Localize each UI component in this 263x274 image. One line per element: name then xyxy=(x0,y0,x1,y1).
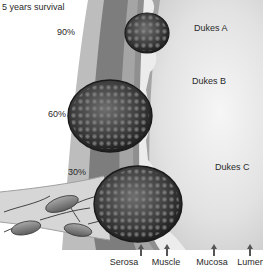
layer-label-mucosa: Mucosa xyxy=(196,258,228,267)
dukes-staging-diagram: 5 years survival 90% 60% 30% Dukes A Duk… xyxy=(0,0,263,274)
survival-percent-c: 30% xyxy=(68,168,86,177)
layer-label-lumen: Lumen xyxy=(237,258,263,267)
tumor-dukes-c xyxy=(94,166,182,242)
tumor-dukes-b xyxy=(68,80,152,152)
survival-percent-b: 60% xyxy=(48,110,66,119)
layer-label-muscle: Muscle xyxy=(152,258,181,267)
survival-percent-a: 90% xyxy=(57,28,75,37)
stage-label-dukes-a: Dukes A xyxy=(194,24,228,33)
survival-title: 5 years survival xyxy=(2,3,65,12)
stage-label-dukes-b: Dukes B xyxy=(192,77,226,86)
bowel-wall-illustration xyxy=(0,0,263,274)
layer-label-serosa: Serosa xyxy=(110,258,139,267)
tumor-dukes-a xyxy=(125,13,169,53)
stage-label-dukes-c: Dukes C xyxy=(215,163,250,172)
